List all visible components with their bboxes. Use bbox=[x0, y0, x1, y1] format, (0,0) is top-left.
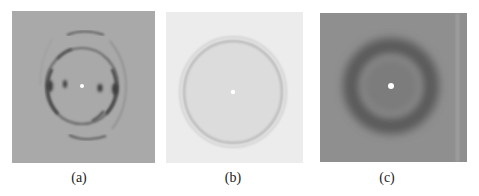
diffraction-panel-c bbox=[320, 13, 467, 162]
diffraction-pattern-b bbox=[166, 12, 303, 163]
beam-center-spot bbox=[80, 84, 84, 88]
caption-c: (c) bbox=[367, 170, 407, 186]
beam-center-spot bbox=[231, 90, 235, 94]
caption-a: (a) bbox=[59, 170, 99, 186]
detector-streak bbox=[456, 13, 459, 162]
beam-center-spot bbox=[388, 83, 394, 89]
diffraction-pattern-a bbox=[12, 11, 155, 163]
diffraction-panel-b bbox=[166, 12, 303, 163]
diffraction-pattern-c bbox=[320, 13, 467, 162]
diffraction-panel-a bbox=[12, 11, 155, 163]
caption-b: (b) bbox=[213, 170, 253, 186]
